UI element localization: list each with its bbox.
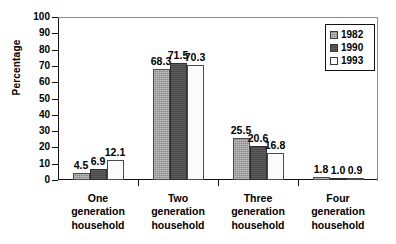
bar-1993-1 (107, 160, 124, 180)
x-axis-tick (218, 180, 219, 186)
bar-value-label: 16.8 (260, 140, 290, 151)
x-axis-category-label: Two generation household (138, 192, 218, 232)
legend-swatch-icon (330, 57, 338, 65)
legend-label: 1982 (341, 30, 363, 40)
x-axis-category-label: Three generation household (218, 192, 298, 232)
bar-1982-2 (153, 69, 170, 180)
bar-value-label: 70.3 (180, 52, 210, 63)
x-axis-category-label: One generation household (58, 192, 138, 232)
bar-1993-3 (267, 153, 284, 180)
bar-1982-4 (313, 177, 330, 180)
legend-swatch-icon (330, 31, 338, 39)
legend-label: 1993 (341, 56, 363, 66)
legend-item-1993: 1993 (330, 54, 371, 67)
y-axis-tick (52, 180, 58, 181)
bar-1982-1 (73, 173, 90, 180)
bar-1993-4 (347, 178, 364, 181)
bar-1990-3 (250, 146, 267, 180)
x-axis-tick (138, 180, 139, 186)
legend-label: 1990 (341, 43, 363, 53)
legend: 198219901993 (325, 24, 375, 71)
x-axis-category-label: Four generation household (298, 192, 378, 232)
bar-1982-3 (233, 138, 250, 180)
legend-item-1990: 1990 (330, 41, 371, 54)
bar-1990-4 (330, 178, 347, 181)
bar-1990-1 (90, 169, 107, 180)
bar-1993-2 (187, 65, 204, 180)
bar-1990-2 (170, 63, 187, 180)
bar-value-label: 0.9 (340, 165, 370, 176)
x-axis-tick (298, 180, 299, 186)
bar-value-label: 12.1 (100, 147, 130, 158)
legend-swatch-icon (330, 44, 338, 52)
legend-item-1982: 1982 (330, 28, 371, 41)
bar-chart: Percentage 0102030405060708090100 4.56.9… (0, 0, 396, 244)
